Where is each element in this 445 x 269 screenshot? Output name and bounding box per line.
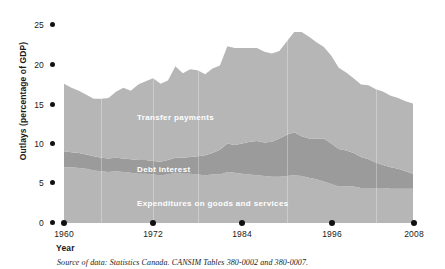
series-label-transfer-payments: Transfer payments [137, 113, 214, 122]
x-tick-label-1996: 1996 [312, 229, 352, 239]
x-tick-dot-1960 [61, 220, 67, 226]
gridline-5 [376, 72, 377, 223]
gridline-4 [287, 32, 288, 223]
x-tick-label-1984: 1984 [222, 229, 262, 239]
x-tick-label-2008: 2008 [394, 229, 434, 239]
x-tick-dot-2008 [411, 220, 417, 226]
source-note: Source of data: Statistics Canada. CANSI… [57, 258, 308, 267]
gridline-1 [101, 48, 102, 223]
x-tick-dot-1972 [150, 220, 156, 226]
x-axis-title: Year [56, 243, 75, 253]
x-tick-dot-1984 [239, 220, 245, 226]
x-tick-dot-1996 [329, 220, 335, 226]
chart-figure: Outlays (percentage of GDP) 25 20 15 10 … [0, 0, 445, 269]
gridline-3 [198, 50, 199, 223]
x-tick-label-1960: 1960 [44, 229, 84, 239]
series-label-debt-interest: Debt interest [137, 165, 190, 174]
series-label-expenditures: Expenditures on goods and services [137, 199, 289, 208]
x-tick-label-1972: 1972 [133, 229, 173, 239]
